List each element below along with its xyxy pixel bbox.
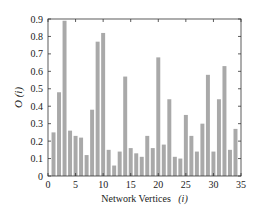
- bar-vertex-4: [68, 131, 72, 176]
- bar-vertex-31: [217, 99, 221, 176]
- y-tick-label: 0.2: [31, 136, 44, 147]
- y-tick-label: 0: [38, 171, 43, 182]
- bar-vertex-25: [184, 115, 188, 176]
- bar-vertex-23: [173, 157, 177, 176]
- x-tick-label: 25: [181, 179, 191, 190]
- bar-vertex-9: [96, 42, 100, 176]
- bar-vertex-32: [222, 66, 226, 176]
- x-tick-label: 15: [126, 179, 136, 190]
- bar-vertex-22: [167, 99, 171, 176]
- bar-vertex-21: [162, 145, 166, 176]
- bar-vertex-15: [129, 148, 133, 176]
- x-axis-title: Network Vertices (i): [101, 193, 188, 205]
- bar-vertex-7: [85, 155, 89, 176]
- bar-vertex-24: [178, 159, 182, 176]
- bar-vertex-13: [118, 152, 122, 176]
- x-axis-title-var: (i): [178, 193, 188, 205]
- bar-vertex-8: [90, 110, 94, 176]
- bar-vertex-5: [74, 136, 78, 176]
- bar-vertex-3: [63, 21, 67, 176]
- bar-vertex-18: [145, 136, 149, 176]
- bar-vertex-27: [195, 152, 199, 176]
- bar-vertex-33: [228, 150, 232, 176]
- y-tick-label: 0.6: [31, 66, 44, 77]
- bar-vertex-29: [206, 75, 210, 176]
- x-axis-title-text: Network Vertices: [101, 193, 171, 204]
- x-tick-label: 35: [236, 179, 246, 190]
- bar-vertex-17: [140, 157, 144, 176]
- x-tick-label: 30: [208, 179, 218, 190]
- y-tick-label: 0.9: [31, 14, 44, 25]
- bar-vertex-30: [211, 152, 215, 176]
- bar-vertex-12: [112, 166, 116, 176]
- bar-vertex-2: [57, 92, 61, 176]
- x-tick-label: 0: [46, 179, 51, 190]
- bar-vertex-6: [79, 138, 83, 176]
- y-tick-label: 0.3: [31, 118, 44, 129]
- bar-chart: 05101520253035 00.10.20.30.40.50.60.70.8…: [0, 0, 261, 219]
- bar-vertex-20: [156, 57, 160, 176]
- bar-vertex-19: [151, 148, 155, 176]
- x-tick-label: 20: [153, 179, 163, 190]
- y-tick-label: 0.8: [31, 31, 44, 42]
- bar-vertex-14: [123, 77, 127, 176]
- y-tick-label: 0.7: [31, 48, 44, 59]
- y-axis-title: O (i): [12, 87, 25, 108]
- y-tick-label: 0.4: [31, 101, 44, 112]
- x-tick-label: 5: [73, 179, 78, 190]
- y-tick-label: 0.5: [31, 83, 44, 94]
- bars-group: [52, 21, 238, 176]
- bar-vertex-26: [189, 136, 193, 176]
- y-tick-label: 0.1: [31, 153, 44, 164]
- x-tick-label: 10: [98, 179, 108, 190]
- bar-vertex-11: [107, 150, 111, 176]
- bar-vertex-28: [200, 124, 204, 176]
- bar-vertex-10: [101, 33, 105, 176]
- bar-vertex-16: [134, 153, 138, 176]
- bar-vertex-34: [234, 129, 238, 176]
- bar-vertex-1: [52, 132, 56, 176]
